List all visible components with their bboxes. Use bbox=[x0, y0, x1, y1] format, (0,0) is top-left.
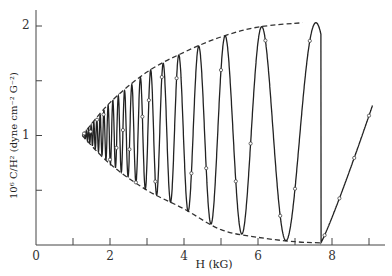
data-point-marker bbox=[279, 214, 282, 217]
data-point-marker bbox=[160, 75, 163, 78]
data-markers bbox=[83, 39, 371, 237]
data-point-marker bbox=[154, 180, 157, 183]
data-point-marker bbox=[205, 167, 208, 170]
data-point-marker bbox=[102, 113, 105, 116]
data-point-marker bbox=[219, 68, 222, 71]
y-axis-label: 10⁶ C/H² (dyne cm⁻² G⁻²) bbox=[8, 61, 19, 211]
data-point-marker bbox=[308, 39, 311, 42]
data-point-marker bbox=[234, 180, 237, 183]
data-point-marker bbox=[323, 234, 326, 237]
data-point-marker bbox=[89, 130, 92, 133]
y-tick-label: 1 bbox=[22, 128, 30, 142]
data-point-marker bbox=[249, 142, 252, 145]
data-point-marker bbox=[141, 115, 144, 118]
data-point-marker bbox=[128, 148, 131, 151]
data-point-marker bbox=[338, 197, 341, 200]
oscillation-curve bbox=[84, 23, 372, 243]
data-point-marker bbox=[190, 172, 193, 175]
y-tick-label: 2 bbox=[22, 18, 30, 32]
data-point-marker bbox=[83, 132, 86, 135]
data-point-marker bbox=[121, 128, 124, 131]
data-point-marker bbox=[367, 114, 370, 117]
data-point-marker bbox=[115, 146, 118, 149]
data-point-marker bbox=[134, 181, 137, 184]
x-axis-label: H (kG) bbox=[0, 258, 392, 271]
data-point-marker bbox=[264, 39, 267, 42]
data-point-marker bbox=[293, 187, 296, 190]
plot-area bbox=[0, 0, 392, 276]
data-point-marker bbox=[95, 118, 98, 121]
lower-envelope bbox=[82, 136, 321, 243]
data-point-marker bbox=[108, 158, 111, 161]
data-point-marker bbox=[353, 156, 356, 159]
data-point-marker bbox=[147, 99, 150, 102]
data-point-marker bbox=[175, 77, 178, 80]
